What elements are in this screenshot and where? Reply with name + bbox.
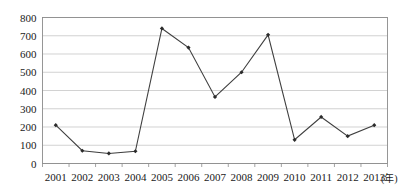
x-tick-label-2004: 2004 bbox=[124, 171, 147, 183]
y-tick-label-600: 600 bbox=[20, 48, 37, 60]
chart-canvas: 0100200300400500600700800 20012002200320… bbox=[0, 0, 410, 196]
x-tick-label-2002: 2002 bbox=[71, 171, 93, 183]
y-tick-label-500: 500 bbox=[20, 66, 37, 78]
x-tick-label-2008: 2008 bbox=[231, 171, 254, 183]
x-tick-label-2012: 2012 bbox=[337, 171, 359, 183]
chart-background bbox=[0, 0, 410, 196]
line-chart: 0100200300400500600700800 20012002200320… bbox=[0, 0, 410, 196]
x-axis-unit-label: (年) bbox=[381, 172, 398, 185]
y-tick-label-800: 800 bbox=[20, 12, 37, 24]
y-tick-label-100: 100 bbox=[20, 139, 37, 151]
y-tick-label-200: 200 bbox=[20, 121, 37, 133]
y-tick-label-0: 0 bbox=[31, 158, 37, 170]
x-tick-label-2009: 2009 bbox=[257, 171, 280, 183]
y-tick-label-400: 400 bbox=[20, 85, 37, 97]
x-tick-label-2005: 2005 bbox=[151, 171, 174, 183]
x-tick-label-2003: 2003 bbox=[98, 171, 121, 183]
x-tick-label-2010: 2010 bbox=[284, 171, 307, 183]
x-tick-label-2007: 2007 bbox=[204, 171, 227, 183]
y-axis-tick-labels: 0100200300400500600700800 bbox=[20, 12, 37, 170]
y-tick-label-300: 300 bbox=[20, 103, 37, 115]
x-tick-label-2001: 2001 bbox=[45, 171, 67, 183]
x-tick-label-2011: 2011 bbox=[310, 171, 332, 183]
x-tick-label-2006: 2006 bbox=[177, 171, 200, 183]
y-tick-label-700: 700 bbox=[20, 30, 37, 42]
